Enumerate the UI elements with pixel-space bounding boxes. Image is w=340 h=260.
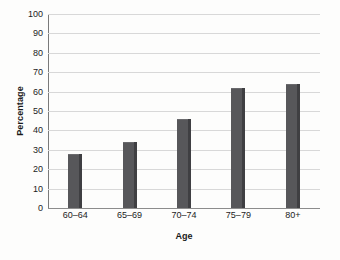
bar-shadow-edge [188, 119, 191, 208]
bar-shadow-edge [79, 154, 82, 208]
y-tick-label-90: 90 [33, 28, 43, 38]
bars-group [48, 14, 320, 208]
x-axis-title: Age [48, 231, 320, 241]
y-tick-label-100: 100 [28, 9, 43, 19]
bar-shadow-edge [242, 88, 245, 208]
y-tick-label-50: 50 [33, 106, 43, 116]
bar[interactable] [68, 154, 82, 208]
y-tick-label-30: 30 [33, 145, 43, 155]
bar-slot [48, 14, 102, 208]
x-tick-label: 80+ [266, 210, 320, 220]
y-axis-title: Percentage [10, 0, 30, 222]
y-tick-label-10: 10 [33, 184, 43, 194]
y-tick-label-60: 60 [33, 87, 43, 97]
x-tick-label: 65–69 [102, 210, 156, 220]
plot-area: 0102030405060708090100 [48, 14, 320, 208]
bar-slot [266, 14, 320, 208]
bar-shadow-edge [297, 84, 300, 208]
bar[interactable] [286, 84, 300, 208]
bar-slot [102, 14, 156, 208]
y-tick-label-80: 80 [33, 48, 43, 58]
x-tick-label: 70–74 [157, 210, 211, 220]
y-tick-label-40: 40 [33, 125, 43, 135]
bar[interactable] [231, 88, 245, 208]
bar-chart: Percentage 0102030405060708090100 60–646… [0, 0, 340, 260]
bar-slot [211, 14, 265, 208]
bar-shadow-edge [134, 142, 137, 208]
x-tick-label: 75–79 [211, 210, 265, 220]
x-axis-tick-labels: 60–6465–6970–7475–7980+ [48, 210, 320, 224]
gridline-0: 0 [48, 208, 320, 209]
bar-slot [157, 14, 211, 208]
x-tick-label: 60–64 [48, 210, 102, 220]
bar[interactable] [123, 142, 137, 208]
y-tick-label-70: 70 [33, 67, 43, 77]
y-tick-label-0: 0 [38, 203, 43, 213]
bar[interactable] [177, 119, 191, 208]
y-axis-title-text: Percentage [15, 86, 25, 136]
y-tick-label-20: 20 [33, 164, 43, 174]
